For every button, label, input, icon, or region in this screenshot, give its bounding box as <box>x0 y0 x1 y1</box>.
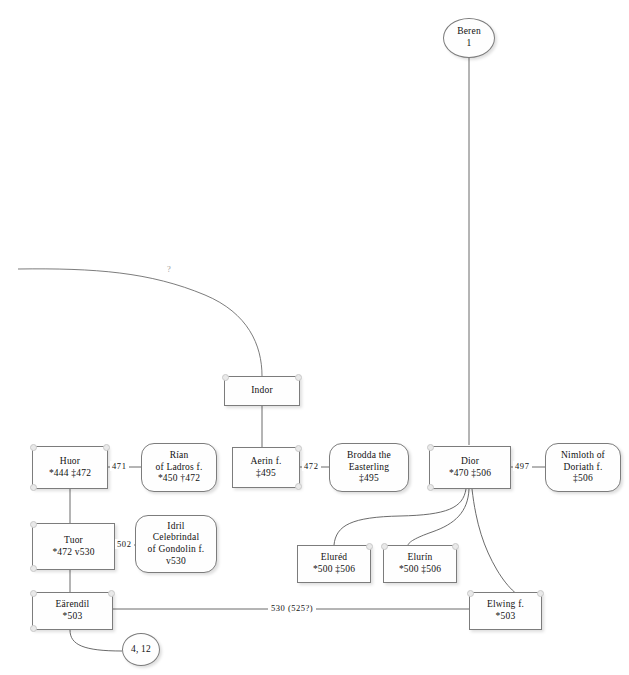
line-unknown-to-indor <box>18 269 262 376</box>
node-huor[interactable]: Huor *444 ‡472 <box>32 446 108 489</box>
line-dior-to-elwing <box>472 489 531 602</box>
node-tuor-name: Tuor <box>64 535 83 547</box>
node-dior[interactable]: Dior *470 ‡506 <box>429 446 511 489</box>
edge-label-aerin-brodda: 472 <box>302 461 321 471</box>
node-idril-name: Idril <box>167 521 184 533</box>
node-brodda-name: Brodda the <box>347 450 391 462</box>
node-indor[interactable]: Indor <box>224 376 300 406</box>
node-reference-label: 4, 12 <box>131 644 151 656</box>
anchor-dot <box>427 484 434 491</box>
node-earendil[interactable]: Eärendil *503 <box>32 592 113 630</box>
node-aerin[interactable]: Aerin f. ‡495 <box>232 447 300 488</box>
node-idril-detail: v530 <box>166 556 186 568</box>
edge-label-unknown: ? <box>166 264 172 274</box>
anchor-dot <box>30 590 37 597</box>
anchor-dot <box>381 543 388 550</box>
node-brodda[interactable]: Brodda the Easterling ‡495 <box>329 443 409 492</box>
node-beren[interactable]: Beren 1 <box>443 18 495 58</box>
node-brodda-name2: Easterling <box>349 462 390 474</box>
anchor-dot <box>30 521 37 528</box>
node-reference-4-12[interactable]: 4, 12 <box>122 633 160 666</box>
node-tuor[interactable]: Tuor *472 v530 <box>32 523 115 570</box>
node-elwing[interactable]: Elwing f. *503 <box>469 592 542 630</box>
node-aerin-detail: ‡495 <box>256 468 276 480</box>
node-elurin[interactable]: Elurín *500 ‡506 <box>383 545 457 583</box>
line-dior-to-elurin <box>408 489 469 545</box>
anchor-dot <box>452 543 459 550</box>
anchor-dot <box>30 625 37 632</box>
line-earendil-to-ref <box>70 630 122 651</box>
node-elured-name: Eluréd <box>321 552 348 564</box>
node-huor-detail: *444 ‡472 <box>49 468 91 480</box>
node-earendil-detail: *503 <box>63 611 83 623</box>
edge-label-earendil-elwing: 530 (525?) <box>268 603 316 613</box>
anchor-dot <box>103 444 110 451</box>
node-nimloth[interactable]: Nimloth of Doriath f. ‡506 <box>545 443 621 492</box>
node-dior-detail: *470 ‡506 <box>449 468 491 480</box>
node-dior-name: Dior <box>461 456 479 468</box>
node-idril[interactable]: Idril Celebrindal of Gondolin f. v530 <box>135 515 217 573</box>
node-earendil-name: Eärendil <box>56 599 90 611</box>
node-elwing-detail: *503 <box>496 611 516 623</box>
node-elured[interactable]: Eluréd *500 ‡506 <box>297 545 371 583</box>
node-beren-name: Beren <box>457 26 481 38</box>
node-nimloth-detail: ‡506 <box>573 473 593 485</box>
anchor-dot <box>295 445 302 452</box>
anchor-dot <box>427 444 434 451</box>
node-tuor-detail: *472 v530 <box>52 547 94 559</box>
edge-label-huor-rian: 471 <box>110 461 129 471</box>
node-elurin-name: Elurín <box>408 552 433 564</box>
node-idril-name2: Celebrindal <box>153 532 200 544</box>
anchor-dot <box>537 590 544 597</box>
line-dior-to-elured <box>334 489 466 545</box>
family-tree-canvas: Beren 1 Indor Huor *444 ‡472 Rían of Lad… <box>0 0 629 675</box>
edge-label-tuor-idril: 502 <box>115 539 134 549</box>
anchor-dot <box>295 483 302 490</box>
node-idril-name3: of Gondolin f. <box>148 544 205 556</box>
node-huor-name: Huor <box>60 456 80 468</box>
node-rian[interactable]: Rían of Ladros f. *450 †472 <box>141 443 217 492</box>
edge-label-dior-nimloth: 497 <box>513 461 532 471</box>
anchor-dot <box>30 484 37 491</box>
anchor-dot <box>30 444 37 451</box>
node-rian-name: Rían <box>170 450 189 462</box>
node-brodda-detail: ‡495 <box>359 473 379 485</box>
node-rian-name2: of Ladros f. <box>156 462 203 474</box>
node-elwing-name: Elwing f. <box>487 599 524 611</box>
node-elured-detail: *500 ‡506 <box>313 564 355 576</box>
node-nimloth-name: Nimloth of <box>561 450 605 462</box>
node-rian-detail: *450 †472 <box>158 473 200 485</box>
node-aerin-name: Aerin f. <box>250 456 281 468</box>
anchor-dot <box>366 543 373 550</box>
anchor-dot <box>295 374 302 381</box>
node-indor-name: Indor <box>251 385 273 397</box>
anchor-dot <box>222 374 229 381</box>
node-elurin-detail: *500 ‡506 <box>399 564 441 576</box>
anchor-dot <box>108 590 115 597</box>
anchor-dot <box>467 590 474 597</box>
anchor-dot <box>30 565 37 572</box>
node-nimloth-name2: Doriath f. <box>564 462 603 474</box>
node-beren-detail: 1 <box>467 38 472 50</box>
